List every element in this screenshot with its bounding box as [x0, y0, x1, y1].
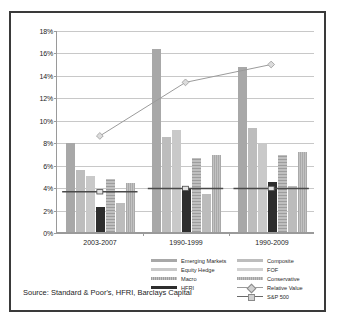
legend-item[interactable]: S&P 500: [237, 292, 323, 301]
y-axis-tick-label: 10%: [40, 117, 53, 124]
legend-marker: [248, 294, 255, 301]
legend-column-right: CompositeFOFConservativeRelative ValueS&…: [237, 256, 323, 301]
legend-swatch: [237, 296, 263, 298]
line-marker: [96, 133, 103, 140]
y-axis-tick-label: 6%: [43, 162, 53, 169]
line-marker: [182, 79, 189, 86]
x-axis-tick-mark: [143, 232, 144, 236]
legend-item[interactable]: Conservative: [237, 274, 323, 283]
legend-item[interactable]: Relative Value: [237, 283, 323, 292]
source-note: Source: Standard & Poor's, HFRI, Barclay…: [23, 288, 192, 297]
chart-figure: 0%2%4%6%8%10%12%14%16%18% 2003-20071990-…: [9, 11, 326, 312]
legend-swatch: [237, 277, 263, 280]
y-axis-tick-label: 14%: [40, 72, 53, 79]
sp500-marker: [268, 186, 274, 190]
legend-label: S&P 500: [267, 294, 289, 300]
legend-label: Conservative: [267, 276, 300, 282]
y-axis-tick-label: 4%: [43, 185, 53, 192]
y-axis-tick-label: 16%: [40, 50, 53, 57]
line-marker: [268, 61, 275, 68]
gridline: [57, 233, 314, 234]
legend-label: Macro: [181, 276, 197, 282]
legend-item[interactable]: Macro: [151, 274, 237, 283]
y-axis-tick-mark: [54, 233, 57, 234]
legend-label: Relative Value: [267, 285, 303, 291]
x-axis-tick-label: 1990-2009: [229, 239, 315, 246]
legend-swatch: [151, 277, 177, 280]
y-axis-tick-label: 2%: [43, 207, 53, 214]
y-axis-tick-label: 18%: [40, 28, 53, 35]
legend-item[interactable]: Composite: [237, 256, 323, 265]
legend-label: Equity Hedge: [181, 267, 215, 273]
x-axis-tick-label: 2003-2007: [57, 239, 143, 246]
legend-swatch: [237, 259, 263, 262]
plot-area: 0%2%4%6%8%10%12%14%16%18% 2003-20071990-…: [56, 31, 314, 233]
line-series-overlay: [57, 31, 314, 232]
line-series: [100, 65, 271, 136]
legend-item[interactable]: Equity Hedge: [151, 265, 237, 274]
legend-label: Composite: [267, 258, 294, 264]
x-axis-tick-label: 1990-1999: [143, 239, 229, 246]
legend-label: Emerging Markets: [181, 258, 226, 264]
sp500-marker: [183, 186, 189, 190]
y-axis-tick-label: 8%: [43, 140, 53, 147]
legend-item[interactable]: Emerging Markets: [151, 256, 237, 265]
legend-item[interactable]: FOF: [237, 265, 323, 274]
legend-swatch: [151, 259, 177, 262]
y-axis-tick-label: 12%: [40, 95, 53, 102]
sp500-marker: [97, 190, 103, 194]
y-axis-tick-label: 0%: [43, 230, 53, 237]
legend-label: FOF: [267, 267, 278, 273]
legend-swatch: [237, 287, 263, 289]
legend-swatch: [151, 268, 177, 271]
x-axis-tick-mark: [229, 232, 230, 236]
legend-swatch: [237, 268, 263, 271]
